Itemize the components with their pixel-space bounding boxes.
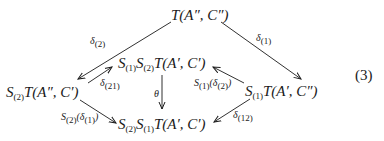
node-bottom-p2-sub: (1) xyxy=(144,124,155,134)
node-middle-p1: S xyxy=(118,55,126,71)
node-bottom-p1: S xyxy=(118,116,126,132)
equation-number: (3) xyxy=(355,67,373,84)
node-middle-p2-sub: (2) xyxy=(144,63,155,73)
label-left-bottom: S(2)(δ(1)) xyxy=(61,111,98,126)
node-left: S(2)T(A″, C′) xyxy=(6,84,79,105)
node-bottom: S(2)S(1)T(A′, C′) xyxy=(118,116,206,137)
label-right-middle-arg-sub: (2) xyxy=(218,81,229,91)
label-top-left-sub: (2) xyxy=(95,39,106,49)
label-left-middle-sub: (21) xyxy=(105,81,120,91)
node-top: T(A″, C″) xyxy=(171,7,229,23)
label-right-middle-sub: (1) xyxy=(199,81,210,91)
label-top-right: δ(1) xyxy=(256,32,271,47)
node-left-prefix-sub: (2) xyxy=(14,92,25,102)
arrow-top-to-right xyxy=(221,22,301,79)
node-left-text: T(A″, C′) xyxy=(24,84,79,100)
label-left-bottom-sub: (2) xyxy=(66,115,77,125)
label-right-middle: S(1)(δ(2)) xyxy=(194,77,231,92)
node-bottom-text: T(A′, C′) xyxy=(154,116,206,132)
node-middle-text: T(A′, C′) xyxy=(154,55,206,71)
label-right-bottom-sub: (12) xyxy=(238,113,253,123)
label-left-bottom-arg-sub: (1) xyxy=(85,115,96,125)
node-middle: S(1)S(2)T(A′, C′) xyxy=(118,55,206,76)
label-right-bottom: δ(12) xyxy=(233,109,253,124)
label-left-middle: δ(21) xyxy=(100,77,120,92)
node-right: S(1)T(A′, C″) xyxy=(245,83,318,104)
label-middle-bottom: θ xyxy=(154,88,159,99)
node-middle-p2: S xyxy=(136,55,144,71)
node-bottom-p1-sub: (2) xyxy=(126,124,137,134)
label-middle-bottom-sym: θ xyxy=(154,88,159,99)
node-right-text: T(A′, C″) xyxy=(263,83,318,99)
node-top-text: T(A″, C″) xyxy=(171,7,229,23)
label-top-left: δ(2) xyxy=(90,35,105,50)
label-top-right-sub: (1) xyxy=(261,36,272,46)
node-middle-p1-sub: (1) xyxy=(126,63,137,73)
node-left-prefix: S xyxy=(6,84,14,100)
node-right-prefix: S xyxy=(245,83,253,99)
node-right-prefix-sub: (1) xyxy=(253,91,264,101)
node-bottom-p2: S xyxy=(136,116,144,132)
